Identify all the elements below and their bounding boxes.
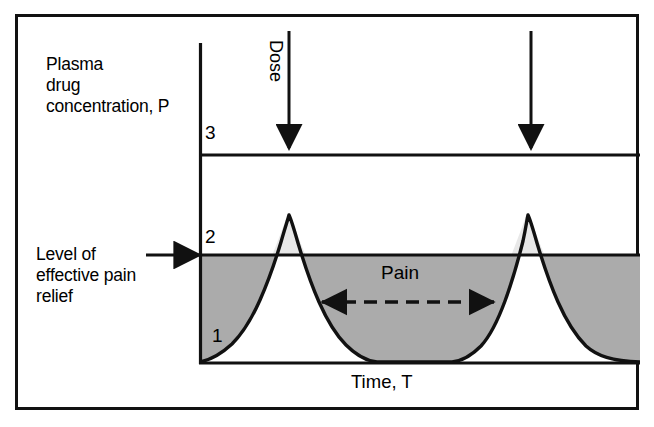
y-tick-label-1: 1	[212, 325, 223, 347]
effective-relief-peak-region	[272, 215, 545, 256]
y-tick-label-3: 3	[205, 122, 216, 144]
pain-shaded-region	[200, 215, 640, 366]
level-of-relief-label: Level of effective pain relief	[36, 244, 136, 307]
x-axis-title: Time, T	[351, 371, 413, 393]
dose-label: Dose	[265, 40, 286, 82]
y-axis-title: Plasma drug concentration, P	[46, 54, 169, 117]
y-tick-label-2: 2	[205, 226, 216, 248]
pain-label: Pain	[381, 262, 419, 284]
